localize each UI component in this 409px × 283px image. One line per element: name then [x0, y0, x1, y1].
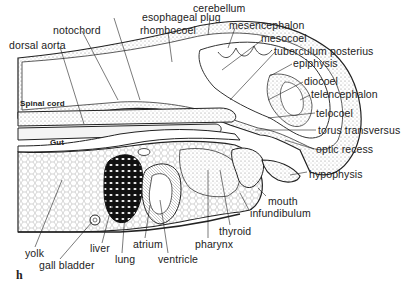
label-tuberculum-posterius: tuberculum posterius: [274, 46, 373, 57]
label-atrium: atrium: [133, 239, 163, 250]
label-telencephalon: telencephalon: [311, 89, 378, 100]
label-rhombocoel: rhombocoel: [140, 25, 196, 36]
hypophysis: [262, 160, 300, 182]
label-cerebellum: cerebellum: [193, 3, 245, 14]
label-mesocoel: mesocoel: [261, 33, 307, 44]
gall-bladder: [90, 215, 100, 225]
label-dorsal-aorta: dorsal aorta: [9, 40, 66, 51]
label-mesencephalon: mesencephalon: [229, 20, 304, 31]
spinal-cord-label: Spinal cord: [20, 98, 65, 109]
label-infundibulum: infundibulum: [250, 208, 311, 219]
label-notochord: notochord: [53, 25, 101, 36]
label-optic-recess: optic recess: [316, 144, 373, 155]
label-thyroid: thyroid: [219, 226, 251, 237]
label-liver: liver: [90, 243, 110, 254]
panel-label: h: [16, 268, 23, 283]
label-lung: lung: [115, 254, 135, 265]
label-torus-transversus: torus transversus: [318, 125, 400, 136]
label-yolk: yolk: [25, 248, 44, 259]
label-hypophysis: hypophysis: [309, 169, 363, 180]
label-ventricle: ventricle: [158, 254, 198, 265]
gut-label: Gut: [50, 137, 64, 148]
label-telocoel: telocoel: [316, 108, 353, 119]
label-epiphysis: epiphysis: [293, 58, 338, 69]
label-gall-bladder: gall bladder: [39, 260, 95, 271]
label-diocoel: diocoel: [304, 76, 338, 87]
label-mouth: mouth: [268, 196, 298, 207]
label-pharynx: pharynx: [195, 239, 233, 250]
